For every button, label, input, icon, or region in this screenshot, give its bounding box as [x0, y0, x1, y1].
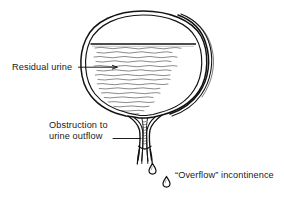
label-obstruction-line1: Obstruction to [49, 120, 108, 130]
bladder-diagram-svg [0, 0, 284, 198]
label-obstruction-line2: urine outflow [49, 131, 102, 141]
label-obstruction: Obstruction tourine outflow [49, 120, 108, 143]
label-overflow: “Overflow” incontinence [175, 170, 274, 181]
label-residual-urine: Residual urine [12, 62, 72, 73]
figure-root: Residual urine Obstruction tourine outfl… [0, 0, 284, 198]
figure-background [0, 0, 284, 198]
